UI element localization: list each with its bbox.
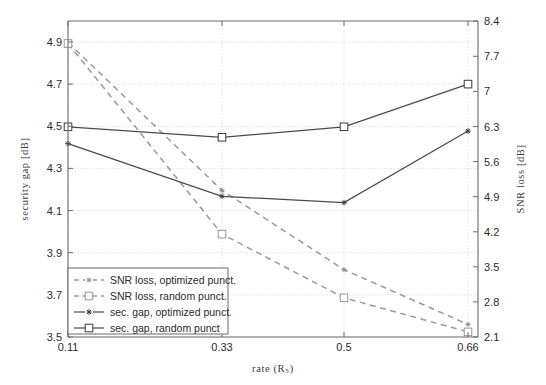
chart-figure: 3.5 3.7 3.9 4.1 4.3 4.5 4.7 4.9 2.1 2.8 … [0, 0, 546, 385]
y2-axis-title: SNR loss [dB] [515, 144, 526, 213]
right-tick-label: 2.1 [484, 331, 499, 343]
right-tick-label: 8.4 [484, 15, 499, 27]
right-tick-label: 6.3 [484, 121, 499, 133]
legend-marker-square-icon [85, 292, 93, 300]
x-tick-label: 0.5 [336, 341, 351, 353]
legend-marker-asterisk-icon [85, 276, 93, 284]
legend-label: sec. gap, random punct [110, 322, 220, 334]
left-tick-label: 4.7 [47, 78, 62, 90]
legend-label: SNR loss, random punct. [110, 290, 227, 302]
left-tick-label: 3.9 [47, 247, 62, 259]
y-axis-title: security gap [dB] [19, 137, 30, 220]
left-tick-label: 4.9 [47, 36, 62, 48]
right-tick-label: 5.6 [484, 156, 499, 168]
left-tick-label: 4.1 [47, 205, 62, 217]
right-tick-label: 7 [484, 85, 490, 97]
right-tick-labels: 2.1 2.8 3.5 4.2 4.9 5.6 6.3 7 7.7 8.4 [484, 15, 499, 343]
legend-marker-square-icon [85, 324, 93, 332]
x-tick-label: 0.66 [457, 341, 478, 353]
right-tick-label: 4.2 [484, 226, 499, 238]
right-tick-label: 4.9 [484, 191, 499, 203]
legend-label: sec. gap, optimized punct. [110, 306, 232, 318]
legend-label: SNR loss, optimized punct. [110, 274, 236, 286]
left-tick-label: 4.3 [47, 162, 62, 174]
left-tick-labels: 3.5 3.7 3.9 4.1 4.3 4.5 4.7 4.9 [47, 36, 62, 343]
left-tick-label: 3.7 [47, 289, 62, 301]
x-tick-label: 0.11 [58, 341, 79, 353]
x-tick-labels: 0.11 0.33 0.5 0.66 [58, 341, 479, 353]
x-axis-title: rate (Rₛ) [252, 363, 294, 375]
right-tick-label: 3.5 [484, 261, 499, 273]
right-tick-label: 7.7 [484, 50, 499, 62]
legend-marker-asterisk-icon [85, 308, 93, 316]
left-tick-label: 4.5 [47, 120, 62, 132]
right-tick-label: 2.8 [484, 296, 499, 308]
x-tick-label: 0.33 [211, 341, 232, 353]
legend: SNR loss, optimized punct. SNR loss, ran… [68, 268, 236, 334]
